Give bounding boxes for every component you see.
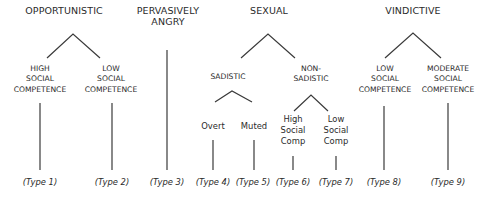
branch-sadistic bbox=[215, 91, 252, 102]
type-7-label: (Type 7) bbox=[319, 178, 353, 188]
tree-connectors bbox=[0, 0, 489, 199]
category-sexual: SEXUAL bbox=[250, 6, 288, 17]
category-opportunistic: OPPORTUNISTIC bbox=[25, 6, 103, 17]
leaf-muted: Muted bbox=[241, 121, 267, 132]
branch-sexual bbox=[241, 34, 295, 58]
type-1-label: (Type 1) bbox=[23, 178, 57, 188]
subcategory-sadistic: SADISTIC bbox=[210, 72, 245, 82]
type-8-label: (Type 8) bbox=[367, 178, 401, 188]
category-vindictive: VINDICTIVE bbox=[385, 6, 440, 17]
type-5-label: (Type 5) bbox=[236, 178, 270, 188]
type-2-label: (Type 2) bbox=[95, 178, 129, 188]
leaf-low-social-comp: Low Social Comp bbox=[324, 114, 349, 147]
branch-vindictive bbox=[385, 33, 441, 58]
subcategory-vindictive-low-social-competence: LOW SOCIAL COMPETENCE bbox=[359, 64, 411, 95]
type-9-label: (Type 9) bbox=[431, 178, 465, 188]
type-3-label: (Type 3) bbox=[150, 178, 184, 188]
subcategory-high-social-competence: HIGH SOCIAL COMPETENCE bbox=[14, 64, 66, 95]
type-4-label: (Type 4) bbox=[196, 178, 230, 188]
leaf-high-social-comp: High Social Comp bbox=[281, 114, 306, 147]
subcategory-low-social-competence: LOW SOCIAL COMPETENCE bbox=[85, 64, 137, 95]
branch-opportunistic bbox=[47, 34, 100, 58]
subcategory-moderate-social-competence: MODERATE SOCIAL COMPETENCE bbox=[422, 64, 474, 95]
type-6-label: (Type 6) bbox=[276, 178, 310, 188]
subcategory-non-sadistic: NON- SADISTIC bbox=[293, 64, 328, 85]
leaf-overt: Overt bbox=[201, 121, 224, 132]
category-pervasively-angry: PERVASIVELY ANGRY bbox=[137, 6, 199, 28]
branch-non-sadistic bbox=[294, 95, 328, 111]
